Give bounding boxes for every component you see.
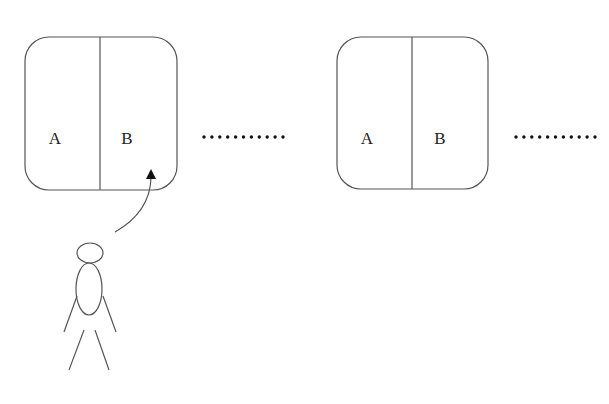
compartment-a-label: A bbox=[49, 129, 62, 148]
diagram-canvas: ABAB bbox=[0, 0, 609, 404]
compartment-b-label: B bbox=[121, 129, 132, 148]
person-leg bbox=[69, 330, 84, 370]
continuation-dots-2 bbox=[514, 135, 596, 138]
person-arm bbox=[64, 296, 77, 332]
stick-figure-person-icon bbox=[64, 243, 116, 370]
compartment-unit-1: AB bbox=[25, 37, 177, 190]
arrowhead-icon bbox=[146, 169, 156, 179]
person-arm bbox=[103, 296, 116, 332]
arrow-curve bbox=[115, 178, 151, 232]
unit-outline bbox=[25, 37, 177, 190]
continuation-dots-1 bbox=[202, 135, 284, 138]
person-leg bbox=[95, 330, 109, 370]
compartment-unit-2: AB bbox=[337, 37, 488, 189]
compartment-a-label: A bbox=[361, 129, 374, 148]
person-body bbox=[76, 263, 102, 315]
person-head bbox=[77, 243, 103, 263]
compartment-b-label: B bbox=[434, 129, 445, 148]
